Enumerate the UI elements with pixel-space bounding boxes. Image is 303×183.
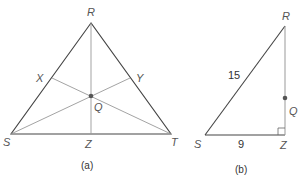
point-q-dot (283, 96, 288, 101)
diagram-canvas: R S T X Y Z Q (a) R S Z Q 15 9 (b) (0, 0, 303, 183)
caption-b: (b) (235, 164, 247, 175)
label-t: T (171, 136, 179, 148)
label-s: S (3, 136, 11, 148)
label-q: Q (94, 101, 103, 113)
label-x: X (35, 72, 44, 84)
label-z-b: Z (279, 139, 288, 151)
label-z: Z (84, 138, 93, 150)
side-label-sr: 15 (228, 69, 240, 81)
centroid-q-dot (89, 94, 94, 99)
label-q-b: Q (289, 105, 298, 117)
hypotenuse-sr (205, 26, 285, 135)
caption-a: (a) (81, 160, 93, 171)
figure-a: R S T X Y Z Q (a) (3, 6, 179, 171)
right-angle-marker (278, 128, 285, 135)
figure-b: R S Z Q 15 9 (b) (194, 10, 298, 175)
label-r-b: R (282, 10, 290, 22)
label-s-b: S (194, 138, 202, 150)
side-label-sz: 9 (238, 138, 244, 150)
label-r: R (87, 6, 95, 18)
label-y: Y (136, 72, 144, 84)
